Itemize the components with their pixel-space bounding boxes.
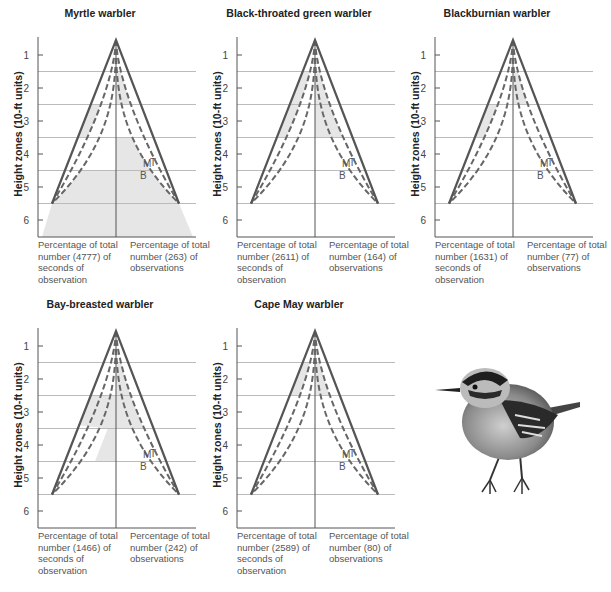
y-tick-label: 1 bbox=[23, 341, 29, 352]
left-caption: Percentage of total number (1631) of sec… bbox=[435, 239, 530, 285]
curve-label-b: B bbox=[537, 170, 544, 181]
warbler-illustration bbox=[430, 360, 585, 500]
warbler-panel: Myrtle warblerHeight zones (10-ft units)… bbox=[0, 0, 200, 292]
left-caption: Percentage of total number (2589) of sec… bbox=[237, 530, 332, 576]
y-tick-label: 4 bbox=[222, 440, 228, 451]
y-tick-label: 2 bbox=[222, 374, 228, 385]
left-caption: Percentage of total number (1466) of sec… bbox=[38, 530, 133, 576]
y-tick-label: 1 bbox=[222, 341, 228, 352]
y-tick-label: 2 bbox=[222, 83, 228, 94]
y-tick-label: 4 bbox=[222, 149, 228, 160]
left-caption: Percentage of total number (4777) of sec… bbox=[38, 239, 133, 285]
y-tick-label: 4 bbox=[420, 149, 426, 160]
warbler-panel: Black-throated green warblerHeight zones… bbox=[199, 0, 399, 292]
y-tick-label: 1 bbox=[420, 50, 426, 61]
chart-plot: 123456BMT bbox=[0, 0, 200, 240]
warbler-panel: Cape May warblerHeight zones (10-ft unit… bbox=[199, 291, 399, 583]
curve-label-b: B bbox=[140, 170, 147, 181]
curve-label-t: T bbox=[349, 157, 355, 168]
chart-plot: 123456BMT bbox=[397, 0, 597, 240]
curve-label-t: T bbox=[547, 157, 553, 168]
y-tick-label: 5 bbox=[420, 182, 426, 193]
y-tick-label: 2 bbox=[23, 83, 29, 94]
right-caption: Percentage of total number (77) of obser… bbox=[527, 239, 611, 274]
chart-plot: 123456BMT bbox=[199, 291, 399, 531]
y-tick-label: 6 bbox=[222, 506, 228, 517]
right-caption: Percentage of total number (80) of obser… bbox=[329, 530, 424, 565]
y-tick-label: 3 bbox=[222, 407, 228, 418]
bird-icon bbox=[430, 360, 585, 500]
y-tick-label: 3 bbox=[420, 116, 426, 127]
y-tick-label: 4 bbox=[23, 149, 29, 160]
y-tick-label: 5 bbox=[23, 182, 29, 193]
y-tick-label: 3 bbox=[23, 407, 29, 418]
y-tick-label: 6 bbox=[420, 215, 426, 226]
chart-plot: 123456BMT bbox=[0, 291, 200, 531]
shaded-zone bbox=[42, 204, 116, 238]
y-tick-label: 6 bbox=[23, 506, 29, 517]
y-tick-label: 4 bbox=[23, 440, 29, 451]
y-tick-label: 6 bbox=[222, 215, 228, 226]
curve-label-b: B bbox=[339, 170, 346, 181]
y-tick-label: 2 bbox=[420, 83, 426, 94]
y-tick-label: 1 bbox=[222, 50, 228, 61]
warbler-panel: Bay-breasted warblerHeight zones (10-ft … bbox=[0, 291, 200, 583]
curve-label-b: B bbox=[140, 461, 147, 472]
y-tick-label: 1 bbox=[23, 50, 29, 61]
chart-plot: 123456BMT bbox=[199, 0, 399, 240]
warbler-panel: Blackburnian warblerHeight zones (10-ft … bbox=[397, 0, 597, 292]
y-tick-label: 5 bbox=[23, 473, 29, 484]
curve-label-t: T bbox=[150, 448, 156, 459]
y-tick-label: 3 bbox=[222, 116, 228, 127]
curve-label-t: T bbox=[150, 157, 156, 168]
curve-label-b: B bbox=[339, 461, 346, 472]
y-tick-label: 2 bbox=[23, 374, 29, 385]
y-tick-label: 5 bbox=[222, 473, 228, 484]
y-tick-label: 6 bbox=[23, 215, 29, 226]
shaded-zone bbox=[116, 204, 193, 238]
y-tick-label: 5 bbox=[222, 182, 228, 193]
curve-label-t: T bbox=[349, 448, 355, 459]
y-tick-label: 3 bbox=[23, 116, 29, 127]
left-caption: Percentage of total number (2611) of sec… bbox=[237, 239, 332, 285]
